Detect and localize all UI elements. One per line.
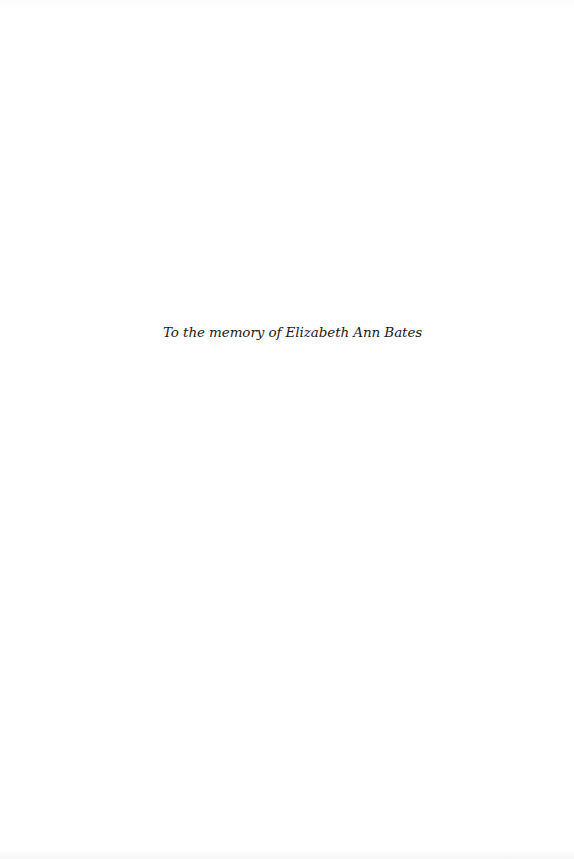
scan-edge-bottom xyxy=(0,849,574,859)
scan-edge-top xyxy=(0,0,574,8)
book-page: To the memory of Elizabeth Ann Bates xyxy=(0,0,574,859)
dedication-text: To the memory of Elizabeth Ann Bates xyxy=(163,323,422,341)
